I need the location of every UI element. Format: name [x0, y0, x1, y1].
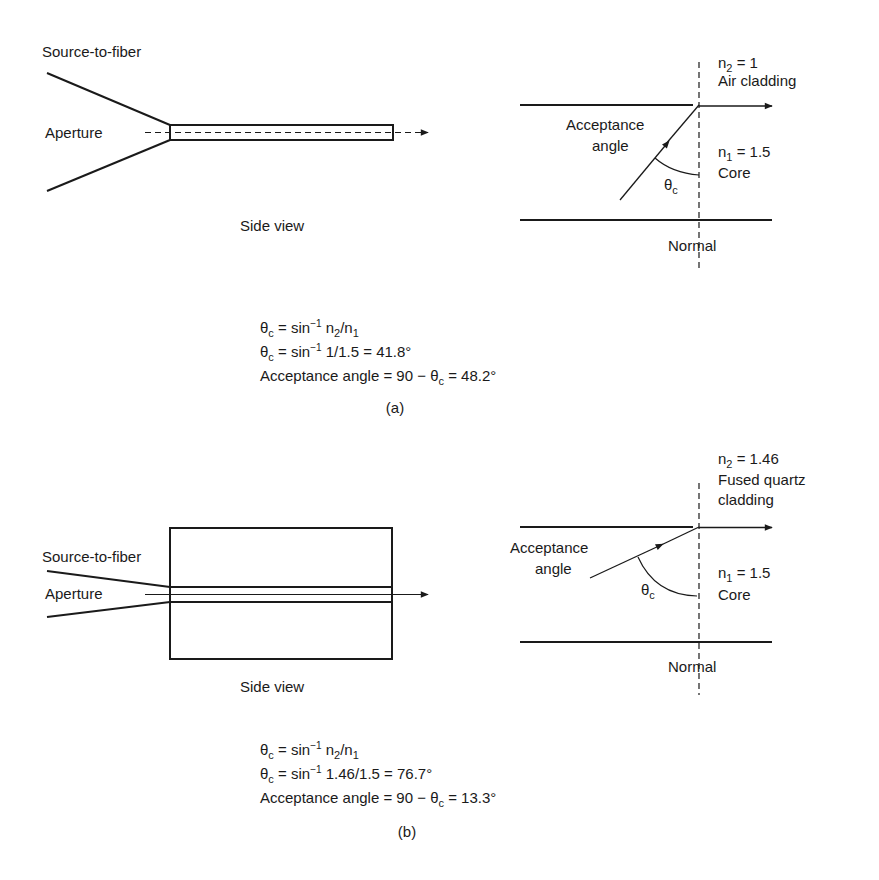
incident-ray	[590, 546, 660, 579]
n2-label: n2 = 1.46	[718, 450, 779, 470]
source-to-fiber-label: Source-to-fiber	[42, 548, 141, 565]
normal-label: Normal	[668, 237, 716, 254]
panel-b-caption: (b)	[398, 823, 416, 840]
incident-ray-upper	[658, 527, 699, 547]
equation-1: θc = sin−1 n2/n1	[260, 318, 359, 339]
acceptance-angle-label-2: angle	[592, 137, 629, 154]
fiber-acceptance-diagram: Source-to-fiber Aperture Side view n2 = …	[0, 0, 879, 880]
aperture-lower-line	[47, 140, 170, 191]
cladding-label-1: Fused quartz	[718, 471, 806, 488]
equation-3: Acceptance angle = 90 − θc = 48.2°	[260, 367, 496, 387]
core-label: Core	[718, 164, 751, 181]
side-view-caption: Side view	[240, 678, 304, 695]
aperture-label: Aperture	[45, 124, 103, 141]
equation-2: θc = sin−1 1/1.5 = 41.8°	[260, 342, 411, 363]
theta-c-label: θc	[641, 581, 655, 601]
aperture-label: Aperture	[45, 585, 103, 602]
panel-a-side-view: Source-to-fiber Aperture Side view	[42, 43, 428, 234]
cladding-label: Air cladding	[718, 72, 796, 89]
equation-2: θc = sin−1 1.46/1.5 = 76.7°	[260, 764, 432, 785]
aperture-lower-line	[47, 602, 170, 617]
cladding-body	[170, 528, 392, 659]
panel-b-equations: θc = sin−1 n2/n1 θc = sin−1 1.46/1.5 = 7…	[260, 740, 496, 840]
equation-3: Acceptance angle = 90 − θc = 13.3°	[260, 789, 496, 809]
normal-label: Normal	[668, 658, 716, 675]
acceptance-angle-label-1: Acceptance	[566, 116, 644, 133]
side-view-caption: Side view	[240, 217, 304, 234]
n1-label: n1 = 1.5	[718, 143, 770, 163]
critical-angle-arc	[655, 158, 699, 175]
panel-b-interface: n2 = 1.46 Fused quartz cladding Acceptan…	[510, 450, 806, 695]
panel-a-interface: n2 = 1 Air cladding Acceptance angle n1 …	[520, 54, 796, 272]
panel-a-equations: θc = sin−1 n2/n1 θc = sin−1 1/1.5 = 41.8…	[260, 318, 496, 416]
source-to-fiber-label: Source-to-fiber	[42, 43, 141, 60]
panel-a-caption: (a)	[386, 399, 404, 416]
equation-1: θc = sin−1 n2/n1	[260, 740, 359, 761]
n2-label: n2 = 1	[718, 54, 758, 74]
incident-ray-upper	[665, 105, 699, 145]
panel-b-side-view: Source-to-fiber Aperture Side view	[42, 528, 428, 695]
acceptance-angle-label-2: angle	[535, 560, 572, 577]
core-label: Core	[718, 586, 751, 603]
panel-a: Source-to-fiber Aperture Side view n2 = …	[42, 43, 796, 416]
theta-c-label: θc	[664, 176, 678, 196]
acceptance-angle-label-1: Acceptance	[510, 539, 588, 556]
cladding-label-2: cladding	[718, 491, 774, 508]
n1-label: n1 = 1.5	[718, 564, 770, 584]
panel-b: Source-to-fiber Aperture Side view n2 = …	[42, 450, 806, 840]
aperture-upper-line	[47, 73, 170, 125]
